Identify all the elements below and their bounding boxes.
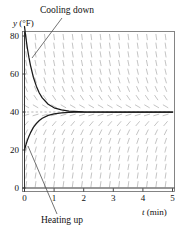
x-axis-label: t (min): [142, 208, 167, 217]
x-tick-label: 4: [137, 194, 149, 203]
heating-up-label: Heating up: [41, 216, 83, 226]
x-tick-label: 3: [107, 194, 119, 203]
x-tick-label: 2: [78, 194, 90, 203]
cooling-down-label: Cooling down: [40, 6, 94, 16]
x-tick-label: 0: [19, 194, 31, 203]
y-axis-variable: y: [13, 18, 17, 28]
y-axis-unit: (°F): [19, 18, 34, 28]
y-tick-label: 60: [3, 70, 19, 79]
x-tick-label: 1: [48, 194, 60, 203]
y-axis-label: y (°F): [13, 19, 34, 28]
x-axis-variable: t: [142, 207, 145, 217]
y-tick-label: 80: [3, 32, 19, 41]
y-tick-label: 20: [3, 146, 19, 155]
y-tick-label: 0: [3, 184, 19, 193]
x-tick-label: 5: [167, 194, 179, 203]
y-tick-label: 40: [3, 108, 19, 117]
x-axis-unit: (min): [147, 207, 167, 217]
